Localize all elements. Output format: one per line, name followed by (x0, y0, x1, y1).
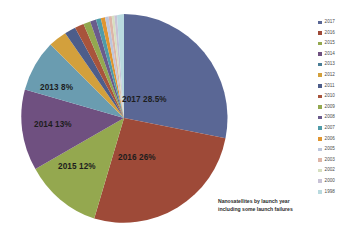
slice-label-2013: 2013 8% (40, 83, 73, 92)
legend-item-label: 2016 (325, 31, 335, 36)
slice-label-2014: 2014 13% (34, 120, 72, 129)
slice-label-2017: 2017 28.5% (122, 95, 167, 104)
legend-item-2014[interactable]: 2014 (318, 49, 358, 60)
legend-item-2016[interactable]: 2016 (318, 28, 358, 39)
legend-item-label: 1998 (325, 190, 335, 195)
legend-swatch-icon (318, 31, 322, 35)
legend-item-1998[interactable]: 1998 (318, 187, 358, 198)
legend-item-2006[interactable]: 2006 (318, 134, 358, 145)
pie-svg (18, 12, 230, 224)
legend-item-label: 2005 (325, 147, 335, 152)
pie-slice-2017[interactable] (124, 14, 228, 138)
legend-item-2013[interactable]: 2013 (318, 59, 358, 70)
legend-item-label: 2010 (325, 94, 335, 99)
legend-swatch-icon (318, 169, 322, 173)
legend-item-label: 2011 (325, 84, 335, 89)
legend-item-2008[interactable]: 2008 (318, 112, 358, 123)
legend-item-2007[interactable]: 2007 (318, 123, 358, 134)
legend-item-label: 2006 (325, 137, 335, 142)
legend-item-2012[interactable]: 2012 (318, 70, 358, 81)
legend-swatch-icon (318, 52, 322, 56)
legend-item-label: 2012 (325, 73, 335, 78)
legend-swatch-icon (318, 126, 322, 130)
legend-item-2003[interactable]: 2003 (318, 155, 358, 166)
legend-swatch-icon (318, 105, 322, 109)
legend-swatch-icon (318, 137, 322, 141)
legend-item-2011[interactable]: 2011 (318, 81, 358, 92)
legend-item-label: 2015 (325, 41, 335, 46)
legend-item-label: 2008 (325, 115, 335, 120)
legend-swatch-icon (318, 148, 322, 152)
legend-item-label: 2002 (325, 168, 335, 173)
legend-swatch-icon (318, 158, 322, 162)
pie-chart: 2017 28.5% 2016 26% 2015 12% 2014 13% 20… (18, 12, 230, 224)
caption-line-2: including some launch failures (218, 206, 314, 214)
legend-item-label: 2009 (325, 105, 335, 110)
caption-line-1: Nanosatellites by launch year (218, 198, 314, 206)
legend-item-2000[interactable]: 2000 (318, 176, 358, 187)
legend-swatch-icon (318, 21, 322, 25)
legend-item-2005[interactable]: 2005 (318, 144, 358, 155)
legend-swatch-icon (318, 95, 322, 99)
legend-item-label: 2017 (325, 20, 335, 25)
legend-item-2017[interactable]: 2017 (318, 17, 358, 28)
legend-item-2010[interactable]: 2010 (318, 91, 358, 102)
pie-slices (21, 14, 227, 223)
legend-swatch-icon (318, 179, 322, 183)
legend-item-2015[interactable]: 2015 (318, 38, 358, 49)
chart-legend: 2017201620152014201320122011201020092008… (318, 17, 358, 197)
legend-swatch-icon (318, 42, 322, 46)
legend-item-2002[interactable]: 2002 (318, 165, 358, 176)
legend-swatch-icon (318, 190, 322, 194)
legend-item-label: 2003 (325, 158, 335, 163)
legend-swatch-icon (318, 73, 322, 77)
legend-swatch-icon (318, 63, 322, 67)
legend-item-2009[interactable]: 2009 (318, 102, 358, 113)
chart-caption: Nanosatellites by launch year including … (218, 198, 314, 214)
chart-area: 2017 28.5% 2016 26% 2015 12% 2014 13% 20… (0, 0, 310, 236)
slice-label-2015: 2015 12% (58, 162, 96, 171)
legend-swatch-icon (318, 116, 322, 120)
legend-item-label: 2000 (325, 179, 335, 184)
legend-item-label: 2014 (325, 52, 335, 57)
legend-item-label: 2013 (325, 62, 335, 67)
slice-label-2016: 2016 26% (118, 153, 156, 162)
legend-item-label: 2007 (325, 126, 335, 131)
legend-swatch-icon (318, 84, 322, 88)
